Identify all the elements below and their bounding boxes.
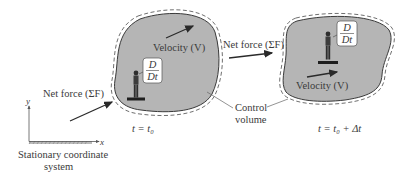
- left-cv-region: [115, 13, 219, 111]
- right-control-volume: D Dt Velocity (V): [280, 13, 395, 104]
- left-control-volume: Velocity (V) D Dt: [111, 10, 222, 116]
- left-operator-numerator: D: [148, 59, 157, 70]
- right-net-force-label: Net force (ΣF): [223, 39, 284, 51]
- control-volume-label-line2: volume: [235, 114, 267, 125]
- right-operator-denominator: Dt: [341, 34, 354, 45]
- left-net-force-label: Net force (ΣF): [43, 88, 104, 100]
- left-operator-denominator: Dt: [146, 71, 159, 82]
- x-axis-label: x: [99, 137, 104, 147]
- right-velocity-label: Velocity (V): [296, 80, 349, 92]
- left-net-force-arrow: [70, 102, 112, 121]
- diagram-canvas: Velocity (V) D Dt D Dt: [0, 0, 414, 179]
- stationary-coordinate-axes: x y Stationary coordinate system: [18, 96, 108, 172]
- left-time-label: t = t₀: [132, 123, 154, 134]
- control-volume-callout: Control volume: [207, 92, 288, 125]
- left-velocity-label: Velocity (V): [153, 42, 206, 54]
- right-net-force-arrow: [229, 53, 272, 58]
- coordinate-caption-line2: system: [44, 161, 73, 172]
- right-time-label: t = t₀ + Δt: [318, 123, 362, 134]
- y-axis-label: y: [25, 96, 30, 106]
- right-operator-numerator: D: [342, 22, 351, 33]
- control-volume-label-line1: Control: [235, 102, 267, 113]
- coordinate-caption-line1: Stationary coordinate: [18, 149, 108, 160]
